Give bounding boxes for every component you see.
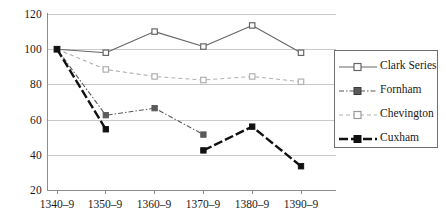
data-point-marker (201, 77, 206, 82)
legend-label-fornham: Fornham (380, 83, 422, 95)
legend-row-chevington: Chevington (335, 101, 437, 125)
line-chart: 120 100 80 60 40 20 1340–9 1350–9 1360–9… (0, 0, 446, 219)
series-cuxham (54, 47, 303, 169)
legend-label-chevington: Chevington (380, 107, 434, 119)
data-point-marker (152, 29, 157, 34)
data-point-marker (298, 50, 303, 55)
legend-swatch-fornham (338, 83, 378, 95)
series-line (57, 49, 203, 134)
data-point-marker (54, 47, 59, 52)
legend-swatch-cuxham (338, 131, 378, 143)
series-fornham (54, 47, 206, 138)
series-line (57, 49, 106, 129)
data-point-marker (250, 23, 255, 28)
series-line (203, 127, 301, 167)
legend-row-cuxham: Cuxham (335, 125, 437, 149)
legend: Clark Series Fornham Chevington (334, 50, 438, 148)
data-point-marker (250, 124, 255, 129)
data-point-marker (103, 50, 108, 55)
data-point-marker (298, 79, 303, 84)
data-point-marker (103, 127, 108, 132)
legend-label-cuxham: Cuxham (380, 131, 419, 143)
legend-row-fornham: Fornham (335, 77, 437, 101)
data-point-marker (201, 132, 206, 137)
series-clark-series (54, 23, 303, 56)
series-line (57, 49, 301, 82)
legend-swatch-chevington (338, 107, 378, 119)
data-point-marker (152, 105, 157, 110)
data-point-marker (201, 44, 206, 49)
data-point-marker (152, 74, 157, 79)
data-point-marker (250, 74, 255, 79)
legend-row-clark-series: Clark Series (335, 53, 437, 77)
legend-label-clark-series: Clark Series (380, 59, 437, 71)
legend-swatch-clark-series (338, 59, 378, 71)
data-point-marker (103, 67, 108, 72)
data-point-marker (298, 164, 303, 169)
series-line (57, 25, 301, 52)
data-point-marker (103, 113, 108, 118)
data-point-marker (201, 148, 206, 153)
